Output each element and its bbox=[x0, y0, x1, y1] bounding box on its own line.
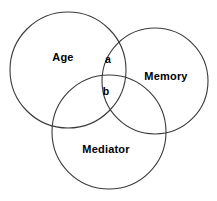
set-label-memory: Memory bbox=[144, 70, 187, 82]
venn-circles-canvas bbox=[0, 0, 217, 201]
region-label-b: b bbox=[103, 85, 109, 97]
set-label-age: Age bbox=[52, 51, 73, 63]
venn-diagram: Age Memory Mediator a b bbox=[0, 0, 217, 201]
set-label-mediator: Mediator bbox=[82, 143, 129, 155]
circle-age bbox=[10, 12, 126, 128]
region-label-a: a bbox=[105, 53, 111, 65]
